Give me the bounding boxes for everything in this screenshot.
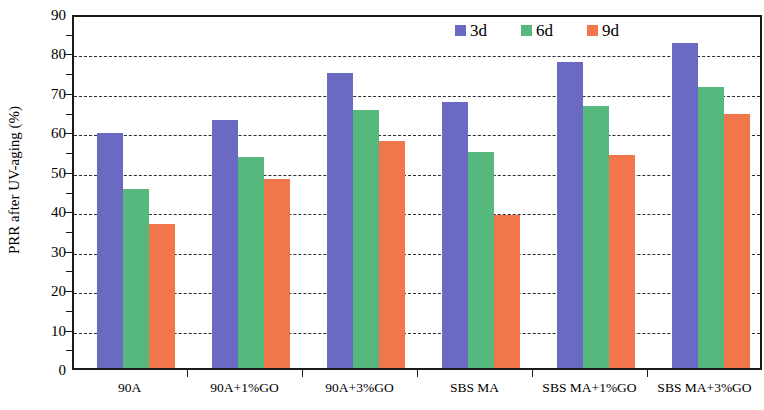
legend: 3d6d9d (455, 22, 619, 39)
plot-area (72, 15, 762, 370)
bar-6d-90a-3-go[interactable] (353, 110, 379, 368)
x-tick-mark (417, 370, 418, 377)
bar-3d-sbs-ma-3-go[interactable] (672, 43, 698, 368)
bar-3d-90a-1-go[interactable] (212, 120, 238, 369)
bar-3d-sbs-ma-1-go[interactable] (557, 62, 583, 368)
legend-label: 3d (470, 22, 487, 39)
bar-3d-90a[interactable] (97, 133, 123, 368)
x-tick-label-90a: 90A (118, 380, 141, 396)
x-tick-label-90a-1-go: 90A+1%GO (210, 380, 278, 396)
bar-group (649, 17, 762, 368)
y-tick-mark (64, 291, 72, 292)
bar-group (74, 17, 189, 368)
legend-swatch-icon (521, 25, 532, 36)
x-tick-mark (302, 370, 303, 377)
y-tick-label: 10 (26, 322, 66, 339)
y-axis-tick-labels: 0102030405060708090 (22, 0, 66, 410)
y-tick-label: 80 (26, 46, 66, 63)
bar-6d-sbs-ma[interactable] (468, 152, 494, 368)
bar-9d-90a[interactable] (149, 224, 175, 368)
bar-chart-figure: PRR after UV-aging (%) 01020304050607080… (0, 0, 764, 410)
y-tick-label: 60 (26, 125, 66, 142)
x-tick-mark (532, 370, 533, 377)
bar-9d-90a-1-go[interactable] (264, 179, 290, 368)
x-tick-mark (187, 370, 188, 377)
y-tick-label: 90 (26, 7, 66, 24)
x-tick-label-sbs-ma-1-go: SBS MA+1%GO (542, 380, 636, 396)
bar-3d-90a-3-go[interactable] (327, 73, 353, 368)
legend-swatch-icon (455, 25, 466, 36)
bar-6d-90a[interactable] (123, 189, 149, 368)
bar-6d-sbs-ma-3-go[interactable] (698, 87, 724, 368)
bar-group (304, 17, 419, 368)
bar-9d-sbs-ma-1-go[interactable] (609, 155, 635, 368)
y-tick-mark (64, 173, 72, 174)
bar-9d-sbs-ma[interactable] (494, 215, 520, 368)
bar-6d-90a-1-go[interactable] (238, 157, 264, 368)
bar-3d-sbs-ma[interactable] (442, 102, 468, 368)
legend-item-3d[interactable]: 3d (455, 22, 487, 39)
y-tick-mark (64, 331, 72, 332)
y-tick-label: 70 (26, 85, 66, 102)
legend-label: 9d (602, 22, 619, 39)
x-tick-label-90a-3-go: 90A+3%GO (325, 380, 393, 396)
legend-label: 6d (536, 22, 553, 39)
legend-item-6d[interactable]: 6d (521, 22, 553, 39)
y-tick-mark (64, 133, 72, 134)
y-tick-mark (64, 54, 72, 55)
y-tick-mark (64, 252, 72, 253)
bar-group (419, 17, 534, 368)
y-tick-label: 40 (26, 204, 66, 221)
legend-item-9d[interactable]: 9d (587, 22, 619, 39)
bar-6d-sbs-ma-1-go[interactable] (583, 106, 609, 368)
bar-group (189, 17, 304, 368)
y-tick-label: 50 (26, 164, 66, 181)
y-tick-label: 20 (26, 283, 66, 300)
x-tick-mark (647, 370, 648, 377)
y-tick-label: 30 (26, 243, 66, 260)
y-tick-mark (64, 94, 72, 95)
x-tick-label-sbs-ma: SBS MA (450, 380, 499, 396)
bar-9d-90a-3-go[interactable] (379, 141, 405, 368)
y-tick-label: 0 (26, 362, 66, 379)
legend-swatch-icon (587, 25, 598, 36)
x-tick-label-sbs-ma-3-go: SBS MA+3%GO (657, 380, 751, 396)
bar-group (534, 17, 649, 368)
bar-9d-sbs-ma-3-go[interactable] (724, 114, 750, 368)
y-tick-mark (64, 212, 72, 213)
